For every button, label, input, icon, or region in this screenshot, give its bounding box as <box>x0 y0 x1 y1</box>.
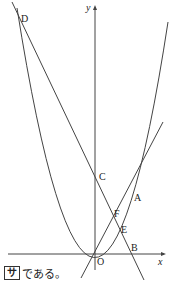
parabola-curve <box>17 8 168 258</box>
point-label-F: F <box>114 209 120 219</box>
point-label-O: O <box>97 257 104 267</box>
line-OA <box>81 122 163 278</box>
line-DB <box>12 2 144 280</box>
point-label-B: B <box>131 243 138 253</box>
y-axis-label: y <box>86 3 90 13</box>
answer-box: サ <box>4 266 20 280</box>
point-label-C: C <box>99 172 106 182</box>
point-label-A: A <box>134 193 141 203</box>
point-label-E: E <box>121 225 127 235</box>
diagram-graphics <box>0 0 170 282</box>
y-axis-arrow-icon <box>93 5 97 10</box>
point-label-D: D <box>21 14 28 24</box>
caption-text: である。 <box>22 265 66 281</box>
caption: サ である。 <box>4 265 66 281</box>
coordinate-diagram: y x D C A F E B O <box>0 0 170 282</box>
x-axis-label: x <box>158 257 162 267</box>
